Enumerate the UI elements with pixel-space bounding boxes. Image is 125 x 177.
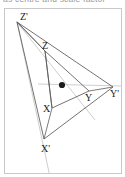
vertex-label-Y-prime: Y' xyxy=(110,88,119,99)
vertex-label-Z: Z xyxy=(42,40,48,51)
vertex-connectors xyxy=(17,22,113,139)
vertex-label-Z-prime: Z' xyxy=(20,11,28,22)
triangle-XYZ xyxy=(45,51,89,108)
edge-Z-prime-to-X-prime-inner xyxy=(17,22,45,51)
caption-text: as centre and scale factor xyxy=(3,0,106,4)
vertex-label-X: X xyxy=(43,103,51,114)
construction-rays xyxy=(16,21,122,174)
caption-strip: as centre and scale factor xyxy=(0,0,125,7)
centre-of-enlargement-dot xyxy=(59,82,65,88)
figure-frame: Z' Z X Y Y' X' xyxy=(4,8,122,174)
vertex-label-X-prime: X' xyxy=(41,143,50,154)
edge-Z-to-X-inner xyxy=(45,51,52,108)
vertex-label-Y: Y xyxy=(85,92,92,103)
geometry-diagram: Z' Z X Y Y' X' xyxy=(4,8,122,174)
triangle-X-prime-Y-prime-Z-prime xyxy=(17,22,113,139)
